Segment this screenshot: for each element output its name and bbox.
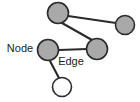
node-top-right: [116, 16, 135, 35]
graph-canvas: NodeEdge: [0, 0, 140, 102]
node-edge-graph-diagram: NodeEdge: [0, 0, 140, 102]
node-top-left: [48, 3, 69, 24]
node-middle-right: [87, 39, 108, 60]
node-middle-left: [38, 40, 59, 61]
node-bottom: [53, 78, 72, 97]
edge-middle-left-to-middle-right: [59, 49, 87, 50]
nodes-layer: [38, 3, 135, 97]
edge-top-left-to-middle-right: [62, 23, 92, 40]
edge-label: Edge: [58, 55, 84, 67]
edge-top-left-to-top-right: [68, 16, 116, 23]
node-label: Node: [7, 42, 33, 54]
